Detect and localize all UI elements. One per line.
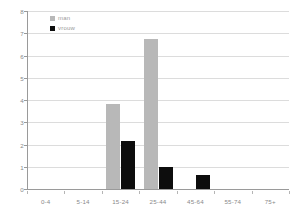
gridline xyxy=(27,145,289,146)
bar-chart: 012345678 0-45-1415-2425-4445-6455-7475+… xyxy=(0,0,297,214)
y-axis: 012345678 xyxy=(0,11,24,190)
legend-item-vrouw: vrouw xyxy=(50,24,75,32)
y-axis-tick-label: 8 xyxy=(2,8,24,15)
y-axis-line xyxy=(27,11,28,190)
gridline xyxy=(27,56,289,57)
y-axis-tick-label: 2 xyxy=(2,141,24,148)
chart-legend: man vrouw xyxy=(50,14,75,32)
x-axis-tick-mark xyxy=(177,191,178,194)
gridline xyxy=(27,11,289,12)
x-axis-tick-label: 45-64 xyxy=(187,198,204,205)
x-axis: 0-45-1415-2425-4445-6455-7475+ xyxy=(27,191,289,213)
y-axis-tick-label: 1 xyxy=(2,163,24,170)
x-axis-tick-mark xyxy=(64,191,65,194)
gridline xyxy=(27,100,289,101)
legend-swatch-man xyxy=(50,16,55,21)
bar-vrouw-15-24 xyxy=(121,141,135,189)
y-axis-tick-label: 6 xyxy=(2,52,24,59)
x-axis-tick-label: 55-74 xyxy=(224,198,241,205)
x-axis-tick-mark xyxy=(214,191,215,194)
y-axis-tick-label: 0 xyxy=(2,186,24,193)
x-axis-tick-label: 25-44 xyxy=(150,198,167,205)
x-axis-tick-mark xyxy=(102,191,103,194)
x-axis-tick-mark xyxy=(27,191,28,194)
y-axis-tick-label: 5 xyxy=(2,74,24,81)
bar-man-15-24 xyxy=(106,104,120,189)
legend-label-vrouw: vrouw xyxy=(58,25,75,31)
x-axis-line xyxy=(27,189,289,190)
legend-label-man: man xyxy=(58,15,70,21)
bar-vrouw-45-64 xyxy=(196,175,210,189)
x-axis-tick-label: 75+ xyxy=(265,198,276,205)
x-axis-tick-label: 15-24 xyxy=(112,198,129,205)
plot-area xyxy=(27,11,289,189)
x-axis-tick-mark xyxy=(252,191,253,194)
x-axis-tick-label: 0-4 xyxy=(41,198,51,205)
gridline xyxy=(27,33,289,34)
x-axis-tick-mark xyxy=(289,191,290,194)
bar-man-25-44 xyxy=(144,39,158,189)
x-axis-tick-mark xyxy=(139,191,140,194)
gridline xyxy=(27,78,289,79)
legend-item-man: man xyxy=(50,14,75,22)
legend-swatch-vrouw xyxy=(50,26,55,31)
y-axis-tick-label: 4 xyxy=(2,97,24,104)
y-axis-tick-label: 3 xyxy=(2,119,24,126)
y-axis-tick-label: 7 xyxy=(2,30,24,37)
gridline xyxy=(27,122,289,123)
x-axis-tick-label: 5-14 xyxy=(77,198,90,205)
bar-vrouw-25-44 xyxy=(159,167,173,189)
